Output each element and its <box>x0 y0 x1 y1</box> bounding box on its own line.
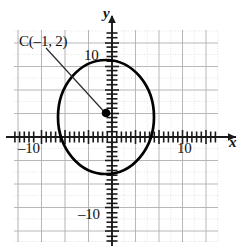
y-axis-name-label: y <box>103 5 110 22</box>
axis-lines <box>6 16 236 246</box>
x-axis-tick-label-positive: 10 <box>177 140 192 157</box>
center-point-marker <box>102 109 111 118</box>
x-axis-name-label: x <box>229 134 237 151</box>
y-axis-tick-label-negative: –10 <box>78 206 100 223</box>
y-axis-tick-label-positive: 10 <box>84 47 99 64</box>
x-axis-tick-label-negative: –10 <box>18 140 40 157</box>
coordinate-plane-figure: C(–1, 2) 10 –10 10 –10 y x <box>0 0 248 248</box>
center-point-label: C(–1, 2) <box>19 33 67 50</box>
